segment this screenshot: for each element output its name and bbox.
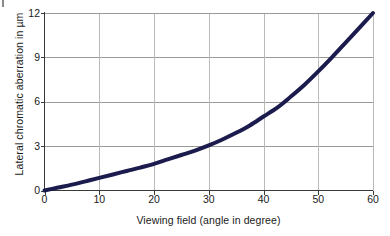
x-tick-label: 20 xyxy=(139,194,169,205)
y-axis-title: Lateral chromatic aberration in µm xyxy=(13,1,25,187)
x-tick-label: 40 xyxy=(249,194,279,205)
x-tick-label: 10 xyxy=(84,194,114,205)
x-tick-label: 60 xyxy=(358,194,388,205)
x-axis-tick-labels: 0102030405060 xyxy=(0,0,390,236)
x-tick-label: 50 xyxy=(303,194,333,205)
chart-figure: 036912 0102030405060 Lateral chromatic a… xyxy=(0,0,390,236)
x-axis-title: Viewing field (angle in degree) xyxy=(44,214,373,226)
x-tick-label: 30 xyxy=(194,194,224,205)
x-tick-label: 0 xyxy=(30,194,60,205)
